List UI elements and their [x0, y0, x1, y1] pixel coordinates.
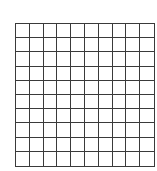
grid-cell	[16, 138, 30, 152]
grid-cell	[140, 67, 154, 81]
grid-cell	[126, 67, 140, 81]
grid-cell	[44, 67, 58, 81]
grid-cell	[85, 67, 99, 81]
grid-cell	[113, 52, 127, 66]
grid-cell	[126, 138, 140, 152]
grid-cell	[113, 95, 127, 109]
grid-cell	[44, 109, 58, 123]
grid-cell	[71, 109, 85, 123]
grid-cell	[16, 52, 30, 66]
grid-cell	[44, 123, 58, 137]
square-grid	[15, 23, 155, 167]
grid-cell	[57, 109, 71, 123]
grid-cell	[16, 123, 30, 137]
grid-cell	[99, 152, 113, 166]
grid-cell	[44, 81, 58, 95]
grid-cell	[44, 24, 58, 38]
grid-cell	[57, 24, 71, 38]
grid-cell	[30, 152, 44, 166]
grid-cell	[30, 95, 44, 109]
grid-cell	[113, 138, 127, 152]
grid-cell	[16, 109, 30, 123]
grid-cell	[140, 138, 154, 152]
grid-cell	[85, 24, 99, 38]
grid-cell	[99, 109, 113, 123]
grid-cell	[99, 138, 113, 152]
grid-cell	[140, 95, 154, 109]
grid-cell	[71, 123, 85, 137]
grid-cell	[44, 38, 58, 52]
grid-cell	[140, 38, 154, 52]
grid-cell	[71, 52, 85, 66]
grid-cell	[85, 138, 99, 152]
grid-cell	[126, 24, 140, 38]
grid-cell	[126, 152, 140, 166]
grid-cell	[71, 138, 85, 152]
grid-cell	[113, 24, 127, 38]
grid-cell	[113, 109, 127, 123]
grid-cell	[44, 52, 58, 66]
grid-cell	[99, 123, 113, 137]
grid-cell	[99, 67, 113, 81]
grid-cell	[85, 152, 99, 166]
grid-cell	[113, 67, 127, 81]
grid-cell	[140, 109, 154, 123]
grid-cell	[57, 152, 71, 166]
grid-cell	[85, 52, 99, 66]
grid-cell	[16, 24, 30, 38]
grid-cell	[16, 152, 30, 166]
grid-cell	[71, 152, 85, 166]
grid-cell	[71, 38, 85, 52]
grid-cell	[113, 123, 127, 137]
grid-cell	[71, 95, 85, 109]
grid-cell	[85, 123, 99, 137]
grid-cell	[57, 138, 71, 152]
grid-cell	[126, 95, 140, 109]
grid-cell	[126, 81, 140, 95]
grid-cell	[99, 81, 113, 95]
grid-cell	[16, 95, 30, 109]
grid-cell	[99, 52, 113, 66]
grid-cell	[71, 67, 85, 81]
grid-cell	[140, 123, 154, 137]
grid-cell	[99, 95, 113, 109]
grid-cell	[44, 152, 58, 166]
grid-cell	[113, 152, 127, 166]
grid-cell	[57, 123, 71, 137]
grid-cell	[16, 81, 30, 95]
grid-cell	[57, 95, 71, 109]
grid-cell	[30, 81, 44, 95]
grid-cell	[85, 81, 99, 95]
grid-cell	[140, 24, 154, 38]
grid-cell	[57, 81, 71, 95]
grid-cell	[30, 109, 44, 123]
grid-cell	[16, 67, 30, 81]
grid-cell	[113, 38, 127, 52]
grid-cell	[85, 95, 99, 109]
grid-cell	[57, 38, 71, 52]
grid-cell	[30, 38, 44, 52]
grid-cell	[30, 52, 44, 66]
grid-cell	[126, 123, 140, 137]
grid-cell	[140, 81, 154, 95]
grid-cell	[57, 67, 71, 81]
grid-cell	[140, 152, 154, 166]
grid-cell	[99, 24, 113, 38]
grid-cell	[44, 138, 58, 152]
grid-cell	[126, 109, 140, 123]
grid-cell	[140, 52, 154, 66]
grid-cell	[113, 81, 127, 95]
grid-cell	[44, 95, 58, 109]
grid-cell	[30, 123, 44, 137]
grid-cell	[57, 52, 71, 66]
grid-cell	[85, 109, 99, 123]
grid-cell	[30, 24, 44, 38]
grid-cell	[85, 38, 99, 52]
grid-cell	[71, 81, 85, 95]
grid-cell	[126, 52, 140, 66]
grid-cell	[126, 38, 140, 52]
grid-cell	[16, 38, 30, 52]
grid-cell	[30, 138, 44, 152]
grid-cell	[99, 38, 113, 52]
grid-cell	[71, 24, 85, 38]
